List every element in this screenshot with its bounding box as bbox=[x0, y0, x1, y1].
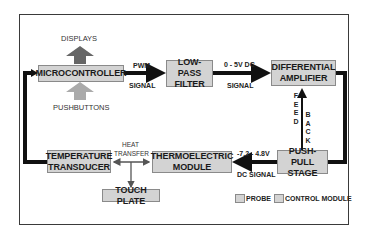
microcontroller-block: MICROCONTROLLER bbox=[38, 65, 124, 82]
pwm-label: PWM bbox=[133, 62, 150, 70]
drive-voltage-label: -7.2 - 4.8V bbox=[237, 150, 270, 158]
pushbuttons-label: PUSHBUTTONS bbox=[53, 104, 110, 112]
pushbuttons-arrow-icon bbox=[66, 82, 94, 100]
pwm-signal-label: SIGNAL bbox=[129, 82, 155, 90]
legend-probe: PROBE bbox=[235, 194, 271, 203]
touch-plate-block: TOUCH PLATE bbox=[102, 189, 160, 202]
probe-swatch-icon bbox=[235, 194, 245, 203]
legend-control-module: CONTROL MODULE bbox=[274, 194, 352, 203]
thermoelectric-module-block: THERMOELECTRIC MODULE bbox=[152, 151, 232, 173]
differential-amplifier-block: DIFFERENTIAL AMPLIFIER bbox=[271, 60, 336, 86]
dc-signal-label: SIGNAL bbox=[227, 82, 253, 90]
control-module-swatch-icon bbox=[274, 194, 284, 203]
heat-label: HEAT bbox=[122, 141, 139, 149]
feedback-label-back: B A C K bbox=[304, 111, 312, 145]
low-pass-filter-block: LOW-PASS FILTER bbox=[166, 60, 213, 87]
displays-arrow-icon bbox=[66, 46, 94, 64]
displays-label: DISPLAYS bbox=[61, 35, 97, 43]
push-pull-stage-block: PUSH-PULL STAGE bbox=[277, 150, 328, 174]
legend-probe-label: PROBE bbox=[246, 195, 271, 202]
temperature-transducer-block: TEMPERATURE TRANSDUCER bbox=[47, 150, 111, 173]
legend-control-module-label: CONTROL MODULE bbox=[285, 195, 352, 202]
dc-range-label: 0 - 5V DC bbox=[224, 61, 255, 69]
feedback-label-feed: F E E D bbox=[292, 92, 300, 126]
drive-signal-label: DC SIGNAL bbox=[237, 171, 276, 179]
transfer-label: TRANSFER bbox=[114, 150, 149, 158]
